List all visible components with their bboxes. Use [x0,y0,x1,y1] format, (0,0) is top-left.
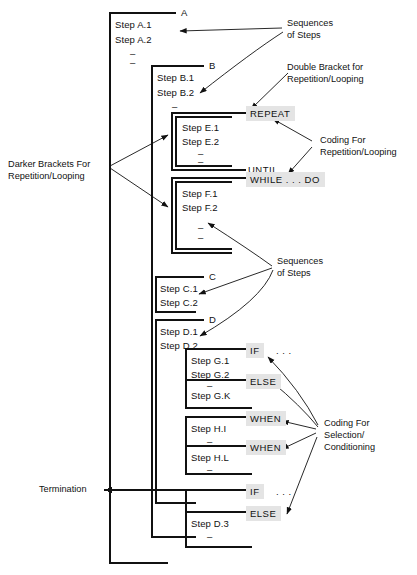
step-f-ellipsis-2: – [198,232,203,243]
keyword-else-bottom: ELSE [246,506,281,521]
termination-arrowhead [104,487,112,493]
step-a-2: Step A.2 [115,34,152,45]
annotation-sequences-top: Sequences of Steps [287,18,333,42]
step-h-ellipsis-1: – [207,436,212,447]
step-e-1: Step E.1 [182,122,219,133]
step-d3-ellipsis-2: – [207,541,212,552]
step-h-ellipsis-2: – [207,464,212,475]
annotation-coding-repetition: Coding For Repetition/Looping [320,135,397,159]
step-a-1: Step A.1 [115,19,152,30]
step-h-i: Step H.I [191,423,226,434]
step-f-1: Step F.1 [182,188,218,199]
step-d-3: Step D.3 [191,518,229,529]
annotation-sequences-mid: Sequences of Steps [277,256,323,280]
step-e-2: Step E.2 [182,136,219,147]
step-h-l: Step H.L [191,452,229,463]
step-f-2: Step F.2 [182,202,218,213]
keyword-if-bottom: IF [246,484,264,499]
keyword-when-1: WHEN [246,411,286,426]
leader-sequences-mid-to-f [208,223,272,266]
step-e-ellipsis-2: – [198,156,203,167]
annotation-double-bracket: Double Bracket for Repetition/Looping [287,62,364,86]
step-c-2: Step C.2 [160,297,198,308]
leader-doublebracket-to-repeat [251,73,288,109]
leader-sequences-to-a [180,28,282,31]
leader-coding-sel-to-when1 [282,421,316,429]
leader-coding-sel-to-when2 [282,433,316,449]
step-b-2: Step B.2 [157,87,194,98]
keyword-repeat: REPEAT [246,106,295,121]
keyword-if-top: IF [246,343,264,358]
tag-d-label: D [209,314,216,325]
annotation-termination: Termination [39,484,87,496]
tag-c-label: C [209,271,216,282]
step-g-k: Step G.K [191,390,230,401]
leader-darker-to-e [110,135,168,166]
tag-b-label: B [209,60,215,71]
keyword-else-top: ELSE [246,374,281,389]
step-b-1: Step B.1 [157,72,194,83]
step-a-ellipsis-2: – [130,57,135,68]
leader-darker-to-f [110,168,168,207]
leader-coding-rep-to-repeat [273,119,312,141]
keyword-while-do: WHILE . . . DO [246,172,325,187]
step-g-1: Step G.1 [191,355,229,366]
step-d-1: Step D.1 [160,326,198,337]
keyword-when-2: WHEN [246,440,286,455]
step-b-ellipsis-1: – [172,101,177,112]
keyword-if-top-dots: . . . [276,345,292,356]
annotation-darker-brackets: Darker Brackets For Repetition/Looping [8,159,90,183]
step-c-1: Step C.1 [160,283,198,294]
annotation-coding-selection: Coding For Selection/ Conditioning [324,418,375,454]
keyword-if-bottom-dots: . . . [276,486,292,497]
step-g-2: Step G.2 [191,369,229,380]
tag-a-label: A [181,7,187,18]
step-d-2: Step D.2 [160,340,198,351]
diagram-canvas: A B C D Step A.1 Step A.2 – – Step B.1 S… [0,0,417,575]
leader-coding-sel-to-else-bottom [287,437,317,514]
